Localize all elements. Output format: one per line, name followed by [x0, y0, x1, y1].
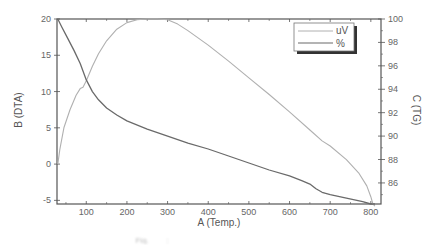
right-y-tick-label: 100 [388, 14, 403, 24]
right-y-axis-title: C (TG) [411, 95, 422, 126]
x-tick-label: 400 [201, 207, 216, 217]
right-y-tick-label: 92 [388, 108, 398, 118]
x-tick-label: 100 [79, 207, 94, 217]
x-tick-label: 700 [323, 207, 338, 217]
x-tick-label: 800 [363, 207, 378, 217]
legend-label-percent: % [336, 38, 345, 49]
right-y-tick-label: 90 [388, 131, 398, 141]
right-y-tick-label: 94 [388, 84, 398, 94]
left-y-tick-label: 5 [46, 123, 51, 133]
right-y-axis-ticks: 86889092949698100 [378, 14, 403, 195]
x-tick-label: 500 [241, 207, 256, 217]
right-y-tick-label: 86 [388, 178, 398, 188]
right-y-tick-label: 98 [388, 37, 398, 47]
x-tick-label: 300 [160, 207, 175, 217]
left-y-tick-label: 15 [41, 50, 51, 60]
left-y-axis-title: B (DTA) [13, 92, 24, 127]
left-y-tick-label: 10 [41, 87, 51, 97]
x-tick-label: 200 [119, 207, 134, 217]
right-y-tick-label: 88 [388, 155, 398, 165]
left-y-tick-label: -5 [43, 195, 51, 205]
legend: uV % [294, 23, 357, 54]
figure-caption: Fig. ___ : ___________ ____ ____ ______ … [110, 236, 330, 244]
x-axis-title: A (Temp.) [198, 217, 241, 228]
left-y-tick-label: 0 [46, 159, 51, 169]
right-y-tick-label: 96 [388, 61, 398, 71]
x-tick-label: 600 [282, 207, 297, 217]
legend-label-uv: uV [336, 25, 349, 36]
left-y-tick-label: 20 [41, 14, 51, 24]
dta-tg-chart: 100200300400500600700800 -505101520 8688… [0, 0, 438, 245]
